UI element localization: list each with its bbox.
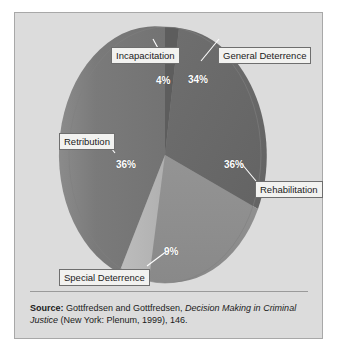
callout-label-retribution: Retribution [59,133,115,150]
pie-chart: 4% 34% 36% 36% 9% Incapacitation General… [15,13,324,285]
pie-value-incapacitation: 4% [156,75,170,86]
source-authors: Gottfredsen and Gottfredsen, [64,303,186,313]
chart-panel: 4% 34% 36% 36% 9% Incapacitation General… [14,12,323,339]
source-publication: (New York: Plenum, 1999), 146. [58,315,188,325]
pie-value-special-deterrence: 9% [164,246,178,257]
callout-label-general-deterrence: General Deterrence [218,47,311,64]
callout-label-incapacitation: Incapacitation [111,47,180,64]
pie-value-general-deterrence: 34% [188,74,208,85]
source-note: Source: Gottfredsen and Gottfredsen, Dec… [30,302,308,326]
source-label: Source: [30,303,64,313]
source-divider [30,291,308,292]
callout-label-rehabilitation: Rehabilitation [255,181,323,198]
callout-label-special-deterrence: Special Deterrence [59,269,150,286]
pie-value-rehabilitation: 36% [224,159,244,170]
figure-root: 4% 34% 36% 36% 9% Incapacitation General… [0,0,338,354]
pie-value-retribution: 36% [116,159,136,170]
